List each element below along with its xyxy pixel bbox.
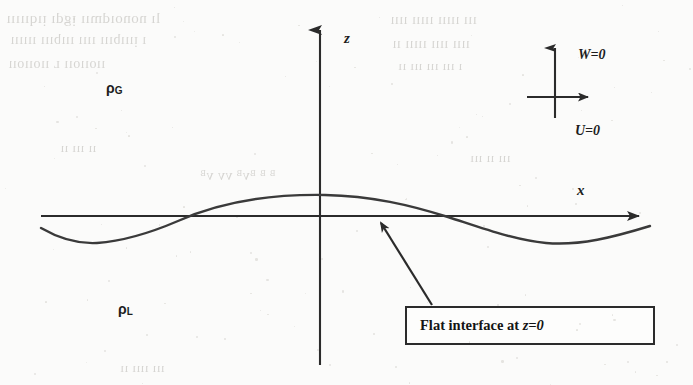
- liquid-density-subscript: L: [127, 306, 133, 317]
- gas-density-label: ρG: [106, 81, 122, 95]
- callout-text: Flat interface at z=0: [420, 317, 544, 334]
- interface-wave-curve: [41, 195, 650, 244]
- liquid-density-label: ρL: [118, 302, 133, 316]
- gas-density-symbol: ρ: [106, 80, 115, 96]
- gas-density-subscript: G: [115, 85, 123, 96]
- interface-wave-figure: lı nonoıdmıı ᴉgdı ᴉıqıııııı ᴉıııbııı ııı…: [0, 0, 693, 385]
- horizontal-velocity-label: U=0: [575, 124, 600, 138]
- callout-box: Flat interface at z=0: [405, 306, 655, 345]
- vertical-velocity-label: W=0: [578, 48, 605, 62]
- x-axis-label: x: [577, 183, 585, 198]
- liquid-density-symbol: ρ: [118, 301, 127, 317]
- z-axis-label: z: [344, 31, 350, 46]
- callout-leader-arrow: [381, 223, 432, 305]
- callout-text-math: z=0: [523, 317, 544, 333]
- callout-text-prefix: Flat interface at: [420, 317, 523, 333]
